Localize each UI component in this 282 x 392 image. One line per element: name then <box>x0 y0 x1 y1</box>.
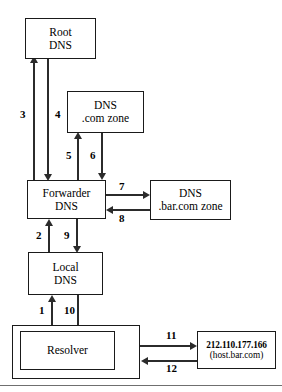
node-root-dns-line2: DNS <box>49 39 72 52</box>
step-label-2: 2 <box>36 229 42 241</box>
arrowhead-step-12 <box>141 357 148 365</box>
arrowhead-step-7 <box>143 191 150 199</box>
node-dns-com-zone[interactable]: DNS .com zone <box>67 91 144 133</box>
step-label-5: 5 <box>66 149 72 161</box>
connector-step-8 <box>111 209 150 211</box>
arrowhead-step-5 <box>74 132 82 139</box>
step-label-10: 10 <box>64 304 75 316</box>
node-forwarder-dns[interactable]: Forwarder DNS <box>27 180 106 219</box>
node-host-address-name: (host.bar.com) <box>210 350 264 360</box>
step-label-1: 1 <box>39 304 45 316</box>
connector-step-6 <box>101 133 103 176</box>
arrowhead-step-8 <box>106 206 113 214</box>
arrowhead-step-11 <box>190 342 197 350</box>
arrowhead-step-1 <box>48 295 56 302</box>
connector-step-3 <box>33 62 35 180</box>
node-dns-bar-com-zone-line1: DNS <box>179 187 202 200</box>
connector-step-11 <box>140 345 192 347</box>
node-dns-com-zone-line1: DNS <box>94 99 117 112</box>
node-resolver[interactable]: Resolver <box>20 331 115 370</box>
page-divider-rule <box>0 385 282 386</box>
node-host-address-ip: 212.110.177.166 <box>206 340 267 350</box>
dns-resolution-diagram: Root DNS DNS .com zone Forwarder DNS DNS… <box>0 0 282 392</box>
node-host-address[interactable]: 212.110.177.166 (host.bar.com) <box>197 331 276 369</box>
node-forwarder-dns-line2: DNS <box>55 200 78 213</box>
step-label-11: 11 <box>166 329 176 341</box>
node-dns-com-zone-line2: .com zone <box>82 112 129 125</box>
step-label-8: 8 <box>119 212 125 224</box>
step-label-3: 3 <box>20 108 26 120</box>
connector-step-7 <box>106 194 145 196</box>
arrowhead-step-6 <box>98 173 106 180</box>
connector-step-9 <box>76 219 78 249</box>
step-label-4: 4 <box>55 108 61 120</box>
step-label-9: 9 <box>64 229 70 241</box>
arrowhead-step-2 <box>45 219 53 226</box>
node-local-dns-line2: DNS <box>54 274 77 287</box>
node-local-dns-line1: Local <box>52 261 78 274</box>
connector-step-2 <box>48 225 50 254</box>
node-forwarder-dns-line1: Forwarder <box>43 187 91 200</box>
step-label-7: 7 <box>119 180 125 192</box>
node-local-dns[interactable]: Local DNS <box>28 252 103 295</box>
connector-step-4 <box>47 59 49 177</box>
step-label-12: 12 <box>166 362 177 374</box>
connector-step-5 <box>77 138 79 180</box>
node-dns-bar-com-zone[interactable]: DNS .bar.com zone <box>150 180 231 220</box>
node-dns-bar-com-zone-line2: .bar.com zone <box>158 200 222 213</box>
node-root-dns[interactable]: Root DNS <box>25 18 96 59</box>
node-resolver-line1: Resolver <box>47 344 88 357</box>
step-label-6: 6 <box>90 149 96 161</box>
node-root-dns-line1: Root <box>49 26 71 39</box>
